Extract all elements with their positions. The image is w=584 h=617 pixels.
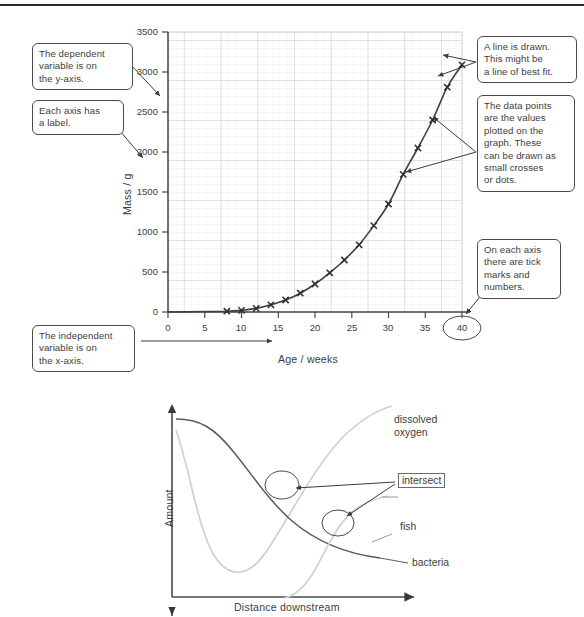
chart1-xtick-10: 10	[226, 322, 256, 333]
chart2-y-axis-label: Amount	[163, 489, 175, 527]
chart1-ytick-3500: 3500	[118, 26, 158, 37]
annotation-line: marks and	[484, 269, 554, 281]
annotation-line: numbers.	[484, 281, 554, 293]
chart1-ytick-0: 0	[118, 306, 158, 317]
chart1-x-axis-label: Age / weeks	[278, 353, 338, 365]
bacteria-label-leader	[380, 558, 408, 563]
annotation-line: there are tick	[484, 256, 554, 268]
annotation-independent-variable: The independent variable is on the x-axi…	[32, 325, 135, 372]
annotation-line: a label.	[39, 117, 117, 129]
curve-label-fish: fish	[400, 521, 416, 534]
chart1-xtick-40: 40	[447, 322, 477, 333]
curve-label-dissolved-oxygen-line1: dissolved	[394, 414, 437, 427]
chart1-xtick-25: 25	[337, 322, 367, 333]
annotation-line: plotted on the	[484, 125, 568, 137]
chart1-xtick-15: 15	[263, 322, 293, 333]
chart1-gridlines	[168, 32, 462, 312]
curve-dissolved-oxygen	[176, 406, 392, 572]
chart1-ytick-500: 500	[118, 266, 158, 277]
annotation-line: variable is on	[39, 342, 128, 354]
intersect-leaders	[296, 482, 395, 516]
chart1-ytick-1500: 1500	[118, 186, 158, 197]
annotation-line: the x-axis.	[39, 355, 128, 367]
annotation-dependent-variable: The dependent variable is on the y-axis.	[32, 43, 133, 90]
annotation-tick-marks: On each axis there are tick marks and nu…	[477, 239, 561, 299]
annotation-line: a line of best fit.	[484, 66, 570, 78]
annotation-line: or dots.	[484, 174, 568, 186]
intersect-circle-1	[265, 471, 299, 499]
chart2-x-axis-label: Distance downstream	[234, 601, 340, 613]
curve-label-leaders	[372, 497, 398, 542]
worksheet-page: Mass / g Age / weeks 0 500 1000 1500 200…	[0, 0, 584, 617]
curve-label-dissolved-oxygen-line2: oxygen	[394, 427, 428, 440]
chart1-ytick-2000: 2000	[118, 146, 158, 157]
annotation-line: can be drawn as	[484, 150, 568, 162]
annotation-line: A line is drawn.	[484, 41, 570, 53]
chart1-xtick-5: 5	[190, 322, 220, 333]
chart2-axes	[168, 404, 414, 616]
curve-bacteria	[176, 419, 380, 558]
annotation-line: The independent	[39, 330, 128, 342]
intersect-circle-2	[322, 510, 354, 536]
annotation-line-of-best-fit: A line is drawn. This might be a line of…	[477, 36, 577, 83]
chart1-ytick-2500: 2500	[118, 106, 158, 117]
annotation-line: graph. These	[484, 137, 568, 149]
annotation-line: small crosses	[484, 162, 568, 174]
annotation-line: This might be	[484, 53, 570, 65]
chart1-xtick-30: 30	[373, 322, 403, 333]
annotation-line: the y-axis.	[39, 73, 126, 85]
chart1-xtick-20: 20	[300, 322, 330, 333]
graphics-layer	[0, 0, 584, 617]
annotation-data-points: The data points are the values plotted o…	[477, 95, 575, 192]
annotation-line: Each axis has	[39, 105, 117, 117]
annotation-axis-label: Each axis has a label.	[32, 100, 124, 135]
annotation-line: are the values	[484, 112, 568, 124]
chart1-ytick-1000: 1000	[118, 226, 158, 237]
intersect-label: intersect	[398, 473, 445, 488]
curve-label-bacteria: bacteria	[412, 557, 449, 570]
chart1-xtick-35: 35	[410, 322, 440, 333]
chart1-xtick-0: 0	[153, 322, 183, 333]
annotation-line: The dependent	[39, 48, 126, 60]
annotation-line: variable is on	[39, 60, 126, 72]
annotation-line: The data points	[484, 100, 568, 112]
annotation-line: On each axis	[484, 244, 554, 256]
